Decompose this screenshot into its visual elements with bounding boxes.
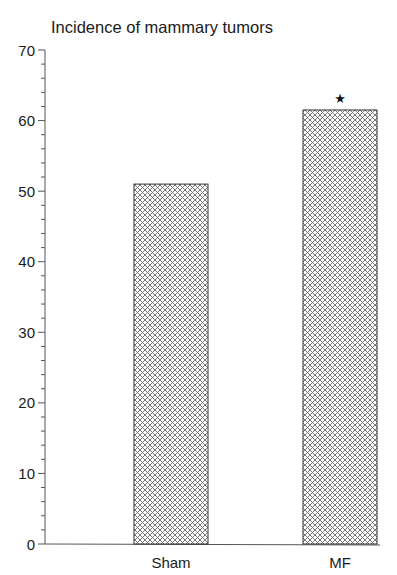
y-tick-label: 60 [18, 112, 35, 129]
y-tick-label: 20 [18, 394, 35, 411]
x-tick-label-sham: Sham [151, 554, 190, 571]
bar-sham [134, 184, 208, 544]
x-axis-labels: ShamMF [151, 554, 350, 571]
y-tick-label: 10 [18, 465, 35, 482]
bars: ★ [134, 91, 377, 544]
y-tick-label: 50 [18, 183, 35, 200]
significance-star-icon: ★ [334, 91, 346, 106]
y-tick-label: 30 [18, 324, 35, 341]
bar-chart: Incidence of mammary tumors 010203040506… [0, 0, 397, 575]
x-tick-label-mf: MF [329, 554, 351, 571]
y-tick-label: 0 [27, 536, 35, 553]
bar-mf [303, 110, 377, 544]
y-tick-label: 40 [18, 253, 35, 270]
y-tick-label: 70 [18, 42, 35, 59]
chart-title: Incidence of mammary tumors [51, 18, 273, 36]
